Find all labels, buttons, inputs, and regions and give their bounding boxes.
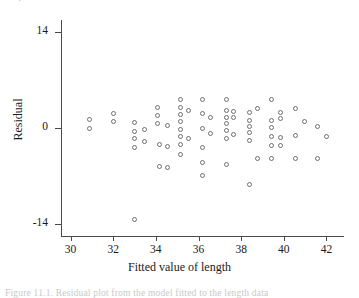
data-point — [255, 156, 260, 161]
data-point — [224, 136, 229, 141]
data-point — [247, 182, 252, 187]
x-axis-title: Fitted value of length — [0, 260, 359, 275]
x-tick-label: 40 — [264, 243, 304, 255]
x-tick-mark — [199, 236, 200, 241]
data-point — [315, 156, 320, 161]
x-tick-mark — [241, 236, 242, 241]
x-tick-label: 32 — [93, 243, 133, 255]
data-point — [247, 124, 252, 129]
data-point — [178, 142, 183, 147]
data-point — [200, 145, 205, 150]
data-point — [142, 127, 147, 132]
data-point — [111, 119, 116, 124]
data-point — [178, 134, 183, 139]
data-point — [224, 97, 229, 102]
data-point — [278, 116, 283, 121]
data-point — [208, 131, 213, 136]
data-point — [269, 143, 274, 148]
data-point — [178, 127, 183, 132]
data-point — [178, 119, 183, 124]
data-point — [155, 105, 160, 110]
plot-area — [62, 24, 335, 232]
data-point — [324, 134, 329, 139]
y-tick-label: 14 — [8, 24, 48, 36]
data-point — [315, 124, 320, 129]
data-point — [142, 139, 147, 144]
data-point — [247, 138, 252, 143]
data-point — [224, 162, 229, 167]
data-point — [269, 118, 274, 123]
data-point — [293, 133, 298, 138]
data-point — [231, 115, 236, 120]
y-tick-mark — [55, 32, 61, 33]
x-tick-mark — [71, 236, 72, 241]
data-point — [247, 118, 252, 123]
data-point — [278, 135, 283, 140]
clipped-caption-text: Figure 11.1. Residual plot from the mode… — [5, 288, 268, 298]
data-point — [186, 136, 191, 141]
data-point — [200, 173, 205, 178]
data-point — [269, 97, 274, 102]
data-point — [178, 105, 183, 110]
data-point — [186, 108, 191, 113]
x-tick-label: 34 — [136, 243, 176, 255]
data-point — [200, 160, 205, 165]
data-point — [302, 119, 307, 124]
x-tick-mark — [326, 236, 327, 241]
data-point — [132, 120, 137, 125]
x-tick-mark — [156, 236, 157, 241]
data-point — [157, 142, 162, 147]
y-tick-label: -14 — [8, 216, 48, 228]
x-tick-mark — [113, 236, 114, 241]
data-point — [132, 136, 137, 141]
data-point — [224, 108, 229, 113]
data-point — [231, 109, 236, 114]
data-point — [178, 112, 183, 117]
data-point — [224, 121, 229, 126]
data-point — [178, 152, 183, 157]
data-point — [155, 113, 160, 118]
data-point — [157, 164, 162, 169]
data-point — [269, 156, 274, 161]
y-axis-title: Residual — [11, 80, 26, 160]
data-point — [178, 97, 183, 102]
x-tick-label: 38 — [221, 243, 261, 255]
data-point — [255, 106, 260, 111]
data-point — [200, 126, 205, 131]
data-point — [278, 143, 283, 148]
data-point — [208, 115, 213, 120]
data-point — [165, 165, 170, 170]
data-point — [224, 128, 229, 133]
data-point — [165, 144, 170, 149]
data-point — [247, 130, 252, 135]
y-tick-mark — [55, 224, 61, 225]
data-point — [269, 125, 274, 130]
data-point — [155, 121, 160, 126]
x-tick-label: 36 — [179, 243, 219, 255]
data-point — [247, 110, 252, 115]
x-axis-line — [61, 236, 344, 237]
data-point — [200, 97, 205, 102]
data-point — [231, 132, 236, 137]
data-point — [269, 134, 274, 139]
data-point — [87, 117, 92, 122]
data-point — [200, 111, 205, 116]
x-tick-mark — [284, 236, 285, 241]
data-point — [87, 126, 92, 131]
data-point — [293, 106, 298, 111]
x-tick-label: 42 — [306, 243, 346, 255]
data-point — [111, 111, 116, 116]
data-point — [132, 129, 137, 134]
data-point — [293, 156, 298, 161]
data-point — [132, 217, 137, 222]
clipped-top-text: · — [18, 0, 22, 6]
data-point — [278, 110, 283, 115]
data-point — [165, 123, 170, 128]
data-point — [132, 145, 137, 150]
data-point — [224, 115, 229, 120]
x-tick-label: 30 — [51, 243, 91, 255]
y-tick-mark — [55, 128, 61, 129]
